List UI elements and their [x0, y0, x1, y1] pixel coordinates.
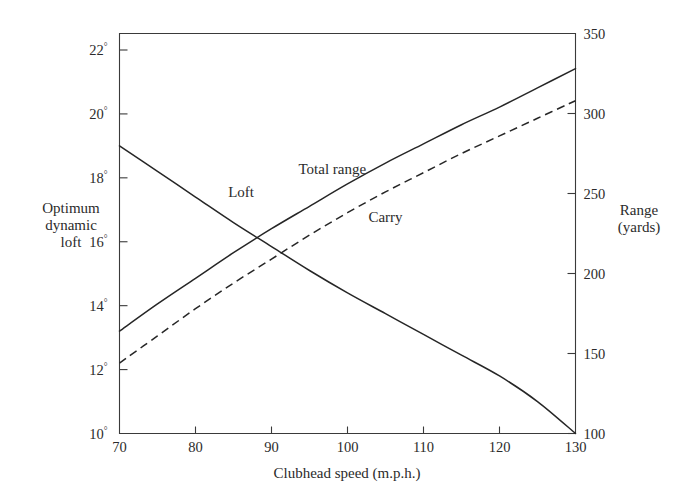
x-axis-title: Clubhead speed (m.p.h.): [273, 465, 420, 482]
y-axis-left-title-line-2: dynamic: [45, 217, 97, 233]
y-right-tick-label-250: 250: [584, 186, 606, 202]
x-tick-label-120: 120: [489, 439, 511, 455]
y-axis-right-title-line-1: Range: [620, 202, 659, 218]
x-tick-label-110: 110: [413, 439, 434, 455]
series-label-carry: Carry: [368, 209, 403, 225]
x-tick-label-70: 70: [112, 439, 127, 455]
y-right-tick-label-150: 150: [584, 346, 606, 362]
x-tick-label-90: 90: [264, 439, 279, 455]
series-label-loft: Loft: [228, 184, 255, 200]
y-right-tick-label-100: 100: [584, 426, 606, 442]
y-axis-right-title-line-2: (yards): [618, 219, 660, 236]
x-tick-label-80: 80: [188, 439, 203, 455]
chart-figure: 70809010011012013010°12°14°16°18°20°22°1…: [0, 0, 682, 494]
x-axis-title-label: Clubhead speed (m.p.h.): [273, 465, 420, 482]
y-right-tick-label-300: 300: [584, 106, 606, 122]
y-axis-right-title: Range (yards): [618, 202, 660, 236]
y-axis-left-title-line-1: Optimum: [42, 200, 100, 216]
golf-loft-range-chart: 70809010011012013010°12°14°16°18°20°22°1…: [0, 0, 682, 494]
y-axis-left-title-line-3: loft: [61, 234, 83, 250]
series-label-total-range: Total range: [298, 161, 366, 177]
y-right-tick-label-200: 200: [584, 266, 606, 282]
y-right-tick-label-350: 350: [584, 26, 606, 42]
x-tick-label-100: 100: [337, 439, 359, 455]
